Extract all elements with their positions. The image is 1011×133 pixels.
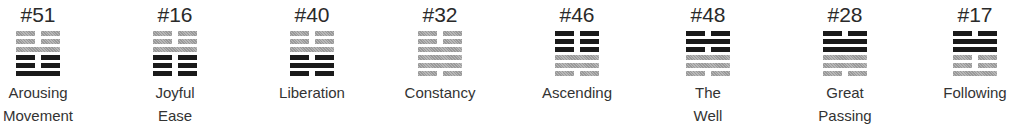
broken-line-icon bbox=[153, 63, 197, 68]
hexagram-item: #51ArousingMovement bbox=[0, 0, 103, 127]
hexagram-name: Following bbox=[943, 81, 1006, 104]
solid-line-icon bbox=[823, 39, 867, 44]
hexagram-name-line1: Following bbox=[943, 81, 1006, 104]
hexagram-name: GreatPassing bbox=[818, 81, 871, 127]
hexagram-item: #32Constancy bbox=[375, 0, 505, 104]
solid-line-icon bbox=[555, 63, 599, 68]
solid-line-icon bbox=[290, 47, 334, 52]
hexagram-number: #48 bbox=[690, 3, 725, 29]
broken-line-icon bbox=[16, 31, 60, 36]
hexagram-item: #28GreatPassing bbox=[780, 0, 910, 127]
solid-line-icon bbox=[823, 55, 867, 60]
solid-line-icon bbox=[686, 39, 730, 44]
broken-line-icon bbox=[953, 63, 997, 68]
broken-line-icon bbox=[153, 39, 197, 44]
solid-line-icon bbox=[418, 63, 462, 68]
solid-line-icon bbox=[953, 71, 997, 76]
broken-line-icon bbox=[418, 31, 462, 36]
hexagram-item: #48TheWell bbox=[643, 0, 773, 127]
broken-line-icon bbox=[418, 71, 462, 76]
hexagram-number: #16 bbox=[157, 3, 192, 29]
solid-line-icon bbox=[953, 47, 997, 52]
hexagram-name-line1: Ascending bbox=[542, 81, 612, 104]
hexagram-name-line1: Joyful bbox=[155, 81, 194, 104]
hexagram-number: #17 bbox=[957, 3, 992, 29]
broken-line-icon bbox=[16, 55, 60, 60]
broken-line-icon bbox=[290, 31, 334, 36]
hexagram-symbol-icon bbox=[823, 31, 867, 76]
hexagram-item: #16JoyfulEase bbox=[110, 0, 240, 127]
hexagram-symbol-icon bbox=[418, 31, 462, 76]
broken-line-icon bbox=[418, 39, 462, 44]
hexagram-symbol-icon bbox=[953, 31, 997, 76]
hexagram-symbol-icon bbox=[16, 31, 60, 76]
broken-line-icon bbox=[16, 63, 60, 68]
hexagram-symbol-icon bbox=[153, 31, 197, 76]
broken-line-icon bbox=[686, 31, 730, 36]
hexagram-name: Liberation bbox=[279, 81, 345, 104]
hexagram-name: TheWell bbox=[694, 81, 723, 127]
hexagram-number: #40 bbox=[294, 3, 329, 29]
hexagram-name: Ascending bbox=[542, 81, 612, 104]
solid-line-icon bbox=[555, 55, 599, 60]
hexagram-name-line1: Arousing bbox=[3, 81, 73, 104]
broken-line-icon bbox=[290, 39, 334, 44]
broken-line-icon bbox=[823, 31, 867, 36]
solid-line-icon bbox=[153, 47, 197, 52]
hexagram-item: #17Following bbox=[910, 0, 1011, 104]
hexagram-item: #46Ascending bbox=[512, 0, 642, 104]
solid-line-icon bbox=[823, 47, 867, 52]
hexagram-number: #46 bbox=[559, 3, 594, 29]
hexagram-name: Constancy bbox=[405, 81, 476, 104]
broken-line-icon bbox=[953, 55, 997, 60]
solid-line-icon bbox=[686, 63, 730, 68]
hexagram-symbol-icon bbox=[686, 31, 730, 76]
broken-line-icon bbox=[153, 71, 197, 76]
solid-line-icon bbox=[418, 55, 462, 60]
solid-line-icon bbox=[290, 63, 334, 68]
solid-line-icon bbox=[823, 63, 867, 68]
solid-line-icon bbox=[418, 47, 462, 52]
broken-line-icon bbox=[290, 55, 334, 60]
broken-line-icon bbox=[555, 47, 599, 52]
broken-line-icon bbox=[555, 39, 599, 44]
broken-line-icon bbox=[686, 47, 730, 52]
broken-line-icon bbox=[16, 39, 60, 44]
solid-line-icon bbox=[16, 71, 60, 76]
hexagram-name-line2: Well bbox=[694, 104, 723, 127]
broken-line-icon bbox=[686, 71, 730, 76]
hexagram-name-line1: Great bbox=[818, 81, 871, 104]
hexagram-name-line2: Movement bbox=[3, 104, 73, 127]
broken-line-icon bbox=[823, 71, 867, 76]
hexagram-item: #40Liberation bbox=[247, 0, 377, 104]
broken-line-icon bbox=[555, 71, 599, 76]
broken-line-icon bbox=[153, 55, 197, 60]
broken-line-icon bbox=[555, 31, 599, 36]
hexagram-number: #51 bbox=[20, 3, 55, 29]
hexagram-name: JoyfulEase bbox=[155, 81, 194, 127]
hexagram-symbol-icon bbox=[290, 31, 334, 76]
solid-line-icon bbox=[686, 55, 730, 60]
hexagram-name-line1: Constancy bbox=[405, 81, 476, 104]
broken-line-icon bbox=[290, 71, 334, 76]
solid-line-icon bbox=[16, 47, 60, 52]
broken-line-icon bbox=[153, 31, 197, 36]
broken-line-icon bbox=[953, 31, 997, 36]
hexagram-name-line1: The bbox=[694, 81, 723, 104]
hexagram-name-line1: Liberation bbox=[279, 81, 345, 104]
hexagram-name-line2: Ease bbox=[155, 104, 194, 127]
hexagram-number: #28 bbox=[827, 3, 862, 29]
hexagram-name: ArousingMovement bbox=[3, 81, 73, 127]
hexagram-symbol-icon bbox=[555, 31, 599, 76]
hexagram-name-line2: Passing bbox=[818, 104, 871, 127]
solid-line-icon bbox=[953, 39, 997, 44]
hexagram-number: #32 bbox=[422, 3, 457, 29]
